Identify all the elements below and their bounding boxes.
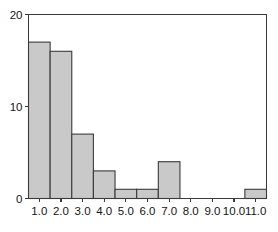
y-tick-label: 20 [10, 9, 23, 21]
bar [93, 171, 115, 199]
x-tick-label: 1.0 [31, 205, 47, 217]
bar [137, 189, 159, 198]
bar [158, 162, 180, 199]
x-tick-label: 8.0 [183, 205, 199, 217]
bar [29, 42, 51, 198]
bar [115, 189, 137, 198]
chart-canvas: 01020 1.02.03.04.05.06.07.08.09.010.011.… [0, 0, 278, 232]
bars-group [29, 42, 267, 198]
x-tick-label: 10.0 [223, 205, 245, 217]
x-tick-label: 4.0 [96, 205, 112, 217]
x-tick-label: 11.0 [245, 205, 267, 217]
x-tick-label: 6.0 [140, 205, 156, 217]
x-tick-label: 9.0 [204, 205, 220, 217]
bar [245, 189, 267, 198]
bar [72, 134, 94, 198]
bar [50, 51, 72, 198]
x-tick-label: 2.0 [53, 205, 69, 217]
y-tick-label: 10 [10, 101, 23, 113]
x-tick-label: 7.0 [161, 205, 177, 217]
x-tick-label: 5.0 [118, 205, 134, 217]
x-axis-tick-labels: 1.02.03.04.05.06.07.08.09.010.011.0 [31, 205, 266, 217]
histogram-chart: 01020 1.02.03.04.05.06.07.08.09.010.011.… [0, 0, 278, 232]
y-tick-label: 0 [16, 193, 22, 205]
y-axis-tick-labels: 01020 [10, 9, 23, 205]
x-tick-label: 3.0 [75, 205, 91, 217]
